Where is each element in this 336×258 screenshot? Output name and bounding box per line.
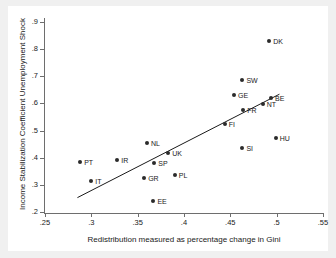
data-point-label: UK <box>172 150 182 157</box>
regression-line <box>0 0 336 258</box>
data-point <box>145 141 149 145</box>
x-tick-label: .4 <box>181 219 187 227</box>
data-point <box>267 39 271 43</box>
y-tick-mark <box>40 76 44 77</box>
y-axis-line <box>44 18 45 214</box>
x-axis-title: Redistribution measured as percentage ch… <box>44 236 324 244</box>
data-point <box>261 102 265 106</box>
data-point-label: EE <box>157 198 166 205</box>
data-point <box>142 176 146 180</box>
y-tick-label: .2 <box>32 208 38 216</box>
x-tick-label: .3 <box>88 219 94 227</box>
data-point-label: IR <box>121 157 128 164</box>
scatter-plot-figure: .2.3.4.5.6.7.8.9 .25.3.35.4.45.5.55 PTIT… <box>0 0 336 258</box>
x-tick-mark <box>91 213 92 217</box>
x-tick-label: .5 <box>274 219 280 227</box>
x-tick-label: .35 <box>132 219 142 227</box>
data-point <box>240 146 244 150</box>
data-point-label: SP <box>158 160 167 167</box>
x-tick-label: .25 <box>40 219 50 227</box>
data-point-label: GR <box>148 175 159 182</box>
data-point-label: FR <box>247 106 256 113</box>
data-point <box>115 158 119 162</box>
data-point-label: FI <box>229 121 235 128</box>
y-tick-mark <box>40 158 44 159</box>
y-axis-title: Income Stabilization Coefficient Unemplo… <box>19 14 27 214</box>
x-tick-mark <box>184 213 185 217</box>
data-point-label: NL <box>151 139 160 146</box>
data-point-label: PT <box>84 158 93 165</box>
data-point <box>232 93 236 97</box>
y-tick-label: .7 <box>32 73 38 81</box>
y-tick-mark <box>40 49 44 50</box>
data-point <box>241 108 245 112</box>
x-tick-mark <box>323 213 324 217</box>
x-tick-mark <box>277 213 278 217</box>
data-point <box>152 161 156 165</box>
y-tick-label: .8 <box>32 45 38 53</box>
y-tick-mark <box>40 131 44 132</box>
data-point <box>173 173 177 177</box>
x-tick-mark <box>138 213 139 217</box>
data-point-label: SI <box>246 144 253 151</box>
data-point <box>166 151 170 155</box>
data-point-label: PL <box>179 172 188 179</box>
data-point-label: SW <box>246 77 257 84</box>
x-tick-mark <box>230 213 231 217</box>
y-tick-label: .6 <box>32 100 38 108</box>
data-point <box>89 179 93 183</box>
y-tick-mark <box>40 22 44 23</box>
y-tick-label: .3 <box>32 181 38 189</box>
data-point <box>78 160 82 164</box>
x-tick-label: .45 <box>225 219 235 227</box>
data-point-label: BE <box>275 95 284 102</box>
y-tick-mark <box>40 185 44 186</box>
x-tick-mark <box>45 213 46 217</box>
data-point-label: DK <box>273 38 283 45</box>
y-tick-label: .5 <box>32 127 38 135</box>
y-tick-mark <box>40 212 44 213</box>
y-tick-label: .4 <box>32 154 38 162</box>
data-point-label: GE <box>238 92 248 99</box>
y-tick-label: .9 <box>32 18 38 26</box>
data-point <box>274 136 278 140</box>
data-point <box>151 199 155 203</box>
data-point-label: IT <box>95 177 101 184</box>
data-point <box>269 96 273 100</box>
data-point <box>240 78 244 82</box>
y-tick-mark <box>40 103 44 104</box>
data-point-label: NT <box>267 101 276 108</box>
data-point-label: HU <box>280 135 290 142</box>
x-tick-label: .55 <box>318 219 328 227</box>
plot-area: .2.3.4.5.6.7.8.9 .25.3.35.4.45.5.55 PTIT… <box>0 0 336 258</box>
data-point <box>223 122 227 126</box>
